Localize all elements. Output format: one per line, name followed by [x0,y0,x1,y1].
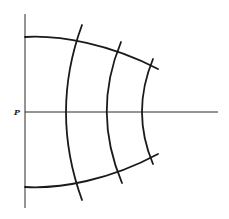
bottom-arc [25,154,158,187]
top-arc [25,37,158,69]
wavefront-diagram [0,0,229,219]
point-p-label: P [14,108,20,116]
